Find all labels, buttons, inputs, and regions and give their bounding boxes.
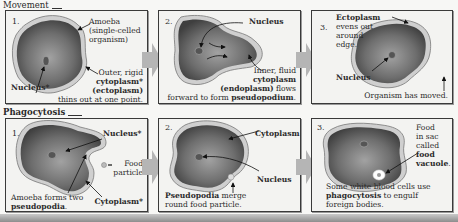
nucleus-shape	[389, 52, 396, 59]
merge-label: Pseudopodia merge round food particle.	[165, 191, 246, 209]
label-line: Outer, rigid	[58, 68, 143, 77]
nucleus-label: Nucleus	[249, 17, 284, 26]
step-number: 3.	[320, 23, 328, 32]
movement-panel-1: 1. Amoeba (single-celled organism) Outer…	[5, 10, 148, 104]
label-line: foreign bodies.	[326, 200, 431, 209]
nucleus-label: Nucleus	[336, 73, 371, 82]
label-line: Amoeba forms two	[11, 193, 83, 202]
step-number: 1.	[12, 17, 20, 26]
label-line: organism)	[89, 35, 141, 44]
nucleus-label: Nucleus*	[11, 83, 50, 92]
label-text: flows	[274, 84, 296, 93]
label-text: forward to form	[168, 93, 232, 102]
label-bold: (ectoplasm)	[92, 86, 143, 95]
label-line: thins out at one point.	[58, 95, 143, 104]
step-number: 3.	[317, 123, 325, 132]
nucleus-shape	[195, 154, 203, 161]
label-bold: food	[416, 150, 435, 159]
cytoplasm-label: Cytoplasm*	[95, 197, 143, 206]
label-line: Food	[113, 159, 143, 168]
label-bold: Nucleus*	[11, 83, 50, 92]
label-line: Inner, fluid	[168, 66, 296, 75]
label-bold: Pseudopodia	[165, 191, 219, 200]
movement-panel-2: 2. Nucleus Inner, fluid cytoplasm (endop…	[158, 10, 301, 104]
white-blood-cells-label: Some white blood cells use phagocytosis …	[326, 182, 431, 209]
step-number: 1.	[12, 129, 20, 138]
amoeba-label: Amoeba (single-celled organism)	[89, 17, 141, 44]
nucleus-label: Nucleus	[257, 175, 292, 184]
food-particle-label: Food particle	[113, 159, 143, 177]
label-text: Organism has moved.	[364, 91, 448, 100]
phagocytosis-panel-3: 3. Food in sac called food vacuole. Some…	[311, 118, 453, 212]
moved-label: Organism has moved.	[364, 91, 448, 100]
amoeba-moved-illustration	[312, 11, 452, 103]
step-number: 2.	[165, 17, 173, 26]
label-line: called	[416, 141, 451, 150]
label-bold: Nucleus	[249, 17, 284, 26]
label-line: around	[336, 31, 380, 40]
label-line: Amoeba	[89, 17, 141, 26]
phagocytosis-panel-2: 2. Cytoplasm Nucleus Pseudopodia merge r…	[158, 118, 301, 212]
nucleus-shape	[360, 141, 368, 147]
outer-cytoplasm-label: Outer, rigid cytoplasm* (ectoplasm) thin…	[58, 68, 143, 104]
label-bold: pseudopodia	[11, 202, 65, 211]
label-line: round food particle.	[165, 200, 246, 209]
label-bold: Nucleus	[336, 73, 371, 82]
label-line: edge.	[336, 40, 380, 49]
label-text: to engulf	[381, 191, 418, 200]
ectoplasm-label: Ectoplasm evens out around edge.	[336, 13, 380, 49]
label-bold: Ectoplasm	[336, 13, 380, 22]
nucleus-shape	[48, 152, 56, 159]
step-number: 2.	[165, 123, 173, 132]
label-bold: cytoplasm	[253, 75, 296, 84]
label-text: .	[294, 93, 296, 102]
label-line: Food	[416, 123, 451, 132]
label-bold: (endoplasm)	[220, 84, 273, 93]
label-text: .	[448, 159, 450, 168]
label-bold: cytoplasm*	[96, 77, 143, 86]
label-line: in sac	[416, 132, 451, 141]
label-line: particle	[113, 168, 143, 177]
phagocytosis-panel-1: 1. Nucleus* Food particle Amoeba forms t…	[5, 118, 148, 212]
bottom-edge-band	[0, 214, 458, 222]
cytoplasm-label: Cytoplasm	[255, 129, 299, 138]
phagocytosis-title-text: Phagocytosis	[3, 107, 65, 117]
movement-title-text: Movement	[3, 0, 49, 10]
label-bold: Nucleus*	[103, 129, 142, 138]
label-bold: pseudopodium	[231, 93, 293, 102]
label-line: evens out	[336, 22, 380, 31]
pseudopodia-label: Amoeba forms two pseudopodia.	[11, 193, 83, 211]
label-bold: vacuole	[416, 159, 448, 168]
food-particle-shape	[228, 174, 234, 180]
label-text: .	[65, 202, 67, 211]
section-title-movement: Movement	[3, 0, 62, 10]
title-rule	[68, 115, 82, 116]
label-bold: Cytoplasm*	[95, 197, 143, 206]
nucleus-shape	[195, 48, 203, 55]
label-line: Some white blood cells use	[326, 182, 431, 191]
endoplasm-label: Inner, fluid cytoplasm (endoplasm) flows…	[168, 66, 296, 102]
food-particle-shape	[102, 163, 107, 168]
label-text: merge	[219, 191, 246, 200]
label-bold: phagocytosis	[326, 191, 381, 200]
movement-panel-3: 3. Ectoplasm evens out around edge. Nucl…	[311, 10, 453, 104]
label-line: (single-celled	[89, 26, 141, 35]
food-vacuole-label: Food in sac called food vacuole.	[416, 123, 451, 168]
nucleus-label: Nucleus*	[103, 129, 142, 138]
label-bold: Cytoplasm	[255, 129, 299, 138]
nucleus-shape	[43, 57, 49, 66]
section-title-phagocytosis: Phagocytosis	[3, 107, 82, 117]
label-bold: Nucleus	[257, 175, 292, 184]
title-rule	[52, 8, 62, 9]
